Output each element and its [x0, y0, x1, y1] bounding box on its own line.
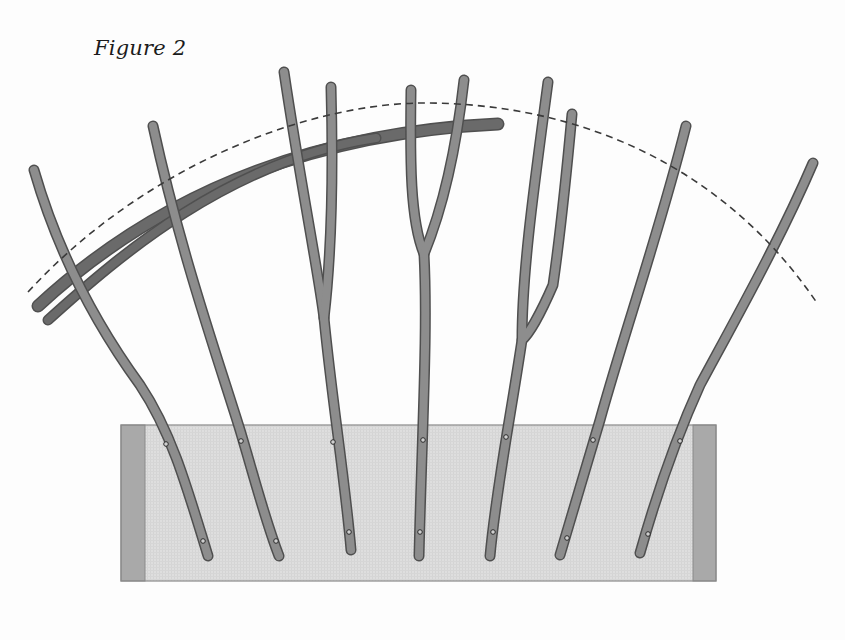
peg-hole-icon: [239, 439, 244, 444]
espalier-diagram: [0, 0, 845, 640]
peg-hole-icon: [646, 532, 651, 537]
peg-hole-icon: [201, 539, 206, 544]
trough-left-end: [121, 425, 145, 581]
peg-hole-icon: [347, 530, 352, 535]
trough-right-end: [693, 425, 716, 581]
peg-hole-icon: [491, 530, 496, 535]
peg-hole-icon: [504, 435, 509, 440]
peg-hole-icon: [421, 438, 426, 443]
peg-hole-icon: [418, 530, 423, 535]
peg-hole-icon: [164, 442, 169, 447]
figure-canvas: Figure 2: [0, 0, 845, 640]
peg-hole-icon: [591, 438, 596, 443]
peg-hole-icon: [565, 536, 570, 541]
peg-hole-icon: [331, 440, 336, 445]
peg-hole-icon: [274, 539, 279, 544]
peg-hole-icon: [678, 439, 683, 444]
